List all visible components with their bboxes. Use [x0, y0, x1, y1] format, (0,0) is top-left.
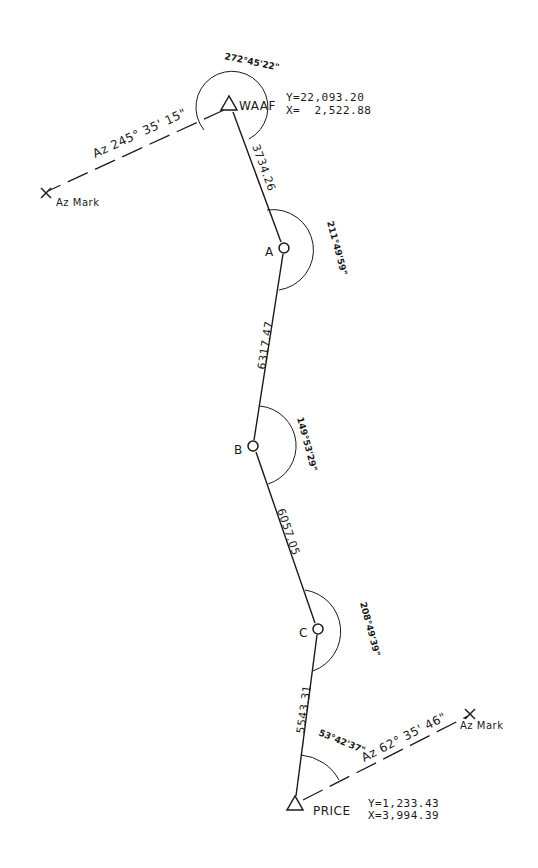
azimuth-waaf-label: Az 245° 35' 15" — [90, 106, 188, 161]
station-b-label: B — [234, 443, 243, 457]
angle-waaf: 272°45'22" — [224, 51, 281, 72]
station-c-label: C — [299, 626, 308, 640]
station-waaf-label: WAAF — [239, 99, 276, 113]
distance-b-c: 6057.05 — [274, 507, 302, 558]
az-mark-east-label: Az Mark — [460, 720, 503, 731]
azimuth-line-waaf — [48, 110, 224, 191]
waaf-y-coordinate: Y=22,093.20 — [286, 91, 364, 104]
station-c-circle-icon — [313, 624, 323, 634]
station-price-label: PRICE — [313, 804, 351, 818]
angle-c: 208°49'39" — [358, 601, 382, 657]
angle-arc-price — [301, 755, 339, 780]
price-x-coordinate: X=3,994.39 — [368, 809, 439, 822]
distance-a-b: 6317.47 — [255, 320, 276, 370]
station-b-circle-icon — [248, 441, 258, 451]
station-a-label: A — [265, 245, 274, 259]
az-mark-west-label: Az Mark — [56, 197, 99, 208]
distance-c-price: 5543.31 — [294, 684, 314, 734]
angle-a: 211°49'59" — [325, 220, 349, 276]
az-mark-west-cross-icon — [41, 188, 51, 198]
angle-arc-b — [260, 406, 296, 484]
az-mark-east-cross-icon — [465, 709, 475, 719]
azimuth-line-price — [303, 716, 468, 800]
station-waaf-triangle-icon — [221, 96, 237, 110]
waaf-x-coordinate: X= 2,522.88 — [286, 104, 371, 117]
station-price-triangle-icon — [287, 796, 303, 810]
station-a-circle-icon — [279, 243, 289, 253]
angle-b: 149°53'29" — [295, 416, 319, 472]
azimuth-price-label: Az 62° 35' 46" — [359, 710, 449, 765]
traverse-diagram: WAAF A B C PRICE Y=22,093.20 X= 2,522.88… — [0, 0, 538, 868]
